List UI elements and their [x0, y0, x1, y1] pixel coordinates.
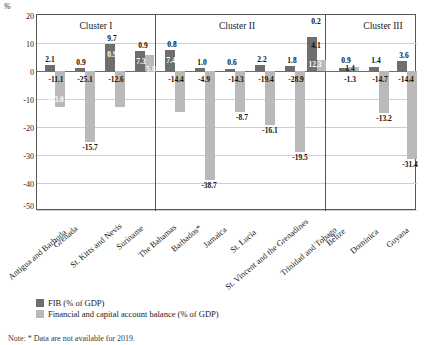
label-stkitts-second: 0.9 — [99, 50, 125, 59]
bar-fib-guyana[interactable] — [397, 61, 407, 71]
x-label-jamaica: Jamaica — [201, 224, 228, 249]
bar-fib-grenada[interactable] — [75, 68, 85, 71]
cluster-title-1: Cluster I — [61, 21, 131, 31]
gridline-m50 — [37, 210, 417, 211]
label-jamaica-fib: 0.6 — [219, 58, 245, 67]
label-bahamas-second: 0.8 — [159, 40, 185, 49]
bar-fib-stvincent[interactable] — [285, 66, 295, 71]
y-tick-m10: -10 — [0, 96, 34, 105]
label-jamaica-fcab: -14.3 — [219, 75, 253, 84]
label-barbados-fib: 1.0 — [189, 58, 215, 67]
x-label-stlucia: St. Lucia — [228, 227, 258, 254]
label-belize-second: 1.4 — [337, 64, 363, 73]
y-axis-unit: % — [4, 2, 11, 11]
legend-item-fib[interactable]: FIB (% of GDP) — [36, 298, 219, 308]
legend-swatch-fib-icon — [36, 299, 44, 307]
x-axis-labels: Antigua and Barbuda Grenada St. Kitts an… — [36, 212, 416, 298]
label-dominica-alt: -13.2 — [367, 114, 401, 123]
label-trinidad-second: 0.2 — [303, 17, 329, 26]
y-tick-10: 10 — [0, 40, 34, 49]
cluster-title-3: Cluster III — [343, 21, 423, 31]
label-antigua-fib: 2.1 — [37, 55, 63, 64]
label-trinidad-third: 4.1 — [303, 41, 329, 50]
label-suriname-second: 0.9 — [130, 41, 156, 50]
label-stkitts-fcab: -12.6 — [99, 75, 133, 84]
y-tick-20: 20 — [0, 12, 34, 21]
label-dominica-fib: 1.4 — [363, 56, 389, 65]
label-barbados-alt: -38.7 — [192, 181, 226, 190]
legend-label-fib: FIB (% of GDP) — [48, 298, 104, 308]
label-barbados-fcab: -4.9 — [189, 75, 219, 84]
y-tick-m50: -50 — [0, 202, 34, 211]
gridline-m30 — [37, 155, 417, 156]
bar-fcab-guyana[interactable] — [407, 71, 417, 159]
bar-fcab-barbados[interactable] — [205, 71, 215, 180]
label-belize-fcab: -1.3 — [335, 75, 365, 84]
label-guyana-alt: -31.4 — [393, 160, 424, 169]
bar-fib-dominica[interactable] — [369, 67, 379, 71]
y-tick-0: 0 — [0, 68, 34, 77]
bar-fib-antigua[interactable] — [45, 65, 55, 71]
label-grenada-alt: -15.7 — [73, 143, 107, 152]
label-bahamas-fcab: -14.4 — [159, 75, 193, 84]
bar-fib-stlucia[interactable] — [255, 65, 265, 71]
label-trinidad-fib: 12.3 — [301, 60, 329, 69]
y-tick-m30: -30 — [0, 152, 34, 161]
chart-footnote: Note: * Data are not available for 2019. — [8, 334, 135, 343]
y-tick-m40: -40 — [0, 180, 34, 189]
x-label-guyana: Guyana — [384, 225, 411, 250]
label-jamaica-alt: -8.7 — [227, 113, 257, 122]
y-tick-m20: -20 — [0, 124, 34, 133]
label-stlucia-alt: -16.1 — [253, 126, 287, 135]
label-guyana-fcab: -14.4 — [389, 75, 423, 84]
chart-container: % 20 10 0 -10 -20 -30 -40 -50 Cluster I … — [0, 0, 424, 345]
chart-legend: FIB (% of GDP) Financial and capital acc… — [36, 298, 219, 320]
label-guyana-fib: 3.6 — [391, 51, 417, 60]
label-stvincent-fcab: -28.9 — [279, 75, 313, 84]
bar-fib-jamaica[interactable] — [225, 69, 235, 71]
x-label-dominica: Dominica — [348, 226, 380, 255]
legend-item-fcab[interactable]: Financial and capital account balance (%… — [36, 309, 219, 319]
label-stkitts-fib: 9.7 — [99, 34, 125, 43]
label-stvincent-alt: -19.5 — [283, 153, 317, 162]
label-antigua-alt: -13.0 — [39, 95, 73, 104]
label-grenada-fcab: -25.1 — [68, 75, 102, 84]
bar-fib-barbados[interactable] — [195, 68, 205, 71]
gridline-m40 — [37, 183, 417, 184]
label-stlucia-fcab: -19.4 — [249, 75, 283, 84]
gridline-10 — [37, 43, 417, 44]
legend-label-fcab: Financial and capital account balance (%… — [48, 309, 219, 319]
plot-area: Cluster I Cluster II Cluster III 2.1 -11… — [36, 14, 416, 210]
label-bahamas-fib: 7.4 — [158, 56, 184, 65]
label-stlucia-fib: 2.2 — [249, 55, 275, 64]
label-suriname-fcab: 5.8 — [138, 65, 164, 74]
cluster-title-2: Cluster II — [197, 21, 277, 31]
label-grenada-fib: 0.9 — [68, 58, 94, 67]
legend-swatch-fcab-icon — [36, 310, 44, 318]
